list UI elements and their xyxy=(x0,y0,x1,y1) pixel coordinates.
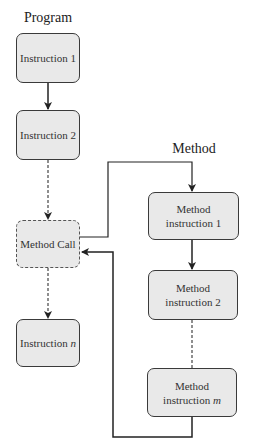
node-instruction-1: Instruction 1 xyxy=(16,33,80,83)
program-label: Program xyxy=(24,10,72,26)
node-instruction-2: Instruction 2 xyxy=(16,110,80,160)
node-text: Methodinstruction 1 xyxy=(166,202,221,230)
node-text: Instruction 1 xyxy=(20,51,76,65)
node-text: Methodinstruction m xyxy=(163,379,221,407)
node-method-instruction-1: Methodinstruction 1 xyxy=(148,192,239,240)
node-text: Method Call xyxy=(20,237,75,251)
node-text: Methodinstruction 2 xyxy=(165,281,220,309)
node-instruction-n: Instruction n xyxy=(16,319,80,367)
method-label: Method xyxy=(172,141,216,157)
node-text: Instruction n xyxy=(20,336,76,350)
node-method-instruction-2: Methodinstruction 2 xyxy=(148,270,238,320)
node-text: Instruction 2 xyxy=(20,128,76,142)
node-method-instruction-m: Methodinstruction m xyxy=(147,368,237,417)
node-method-call: Method Call xyxy=(16,220,80,268)
